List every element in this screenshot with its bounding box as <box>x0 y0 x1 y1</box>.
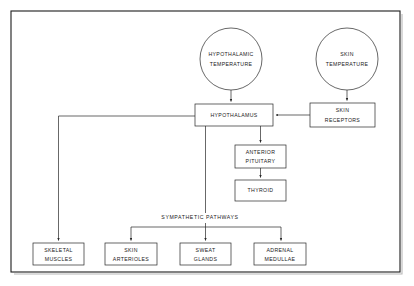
node-skin-arterioles[interactable]: SKIN ARTERIOLES <box>105 243 157 265</box>
skin-receptors-label-line2: RECEPTORS <box>325 117 361 123</box>
node-hypothalamus[interactable]: HYPOTHALAMUS <box>195 104 273 126</box>
skin-arterioles-label-line2: ARTERIOLES <box>113 256 149 262</box>
skin-receptors-label-line1: SKIN <box>336 107 350 113</box>
skin-temperature-label-line1: SKIN <box>340 51 354 57</box>
sympathetic-pathways-label-group: SYMPATHETIC PATHWAYS <box>148 213 253 223</box>
skeletal-muscles-label-line2: MUSCLES <box>45 256 73 262</box>
hypothalamus-label: HYPOTHALAMUS <box>210 112 257 118</box>
skin-temperature-circle[interactable] <box>316 28 378 90</box>
node-sweat-glands[interactable]: SWEAT GLANDS <box>180 243 231 265</box>
skin-arterioles-label-line1: SKIN <box>124 247 138 253</box>
skin-temperature-label-line2: TEMPERATURE <box>326 61 369 67</box>
node-adrenal-medullae[interactable]: ADRENAL MEDULLAE <box>254 243 306 265</box>
thyroid-label: THYROID <box>248 187 274 193</box>
node-thyroid[interactable]: THYROID <box>235 180 286 201</box>
hypothalamic-temperature-circle[interactable] <box>200 28 262 90</box>
adrenal-medullae-label-line2: MEDULLAE <box>265 256 296 262</box>
hypothalamic-temperature-label-line1: HYPOTHALAMIC <box>208 51 253 57</box>
sweat-glands-label-line2: GLANDS <box>194 256 218 262</box>
flow-diagram: SYMPATHETIC PATHWAYS HYPOTHALAMIC TEMPER… <box>0 0 414 286</box>
diagram-canvas: SYMPATHETIC PATHWAYS HYPOTHALAMIC TEMPER… <box>0 0 414 286</box>
node-anterior-pituitary[interactable]: ANTERIOR PITUITARY <box>235 145 286 168</box>
sweat-glands-label-line1: SWEAT <box>196 247 216 253</box>
node-skeletal-muscles[interactable]: SKELETAL MUSCLES <box>33 243 84 265</box>
node-skin-temperature[interactable]: SKIN TEMPERATURE <box>316 28 378 90</box>
hypothalamic-temperature-label-line2: TEMPERATURE <box>210 61 253 67</box>
anterior-pituitary-label-line2: PITUITARY <box>246 158 276 164</box>
sympathetic-pathways-label: SYMPATHETIC PATHWAYS <box>161 214 238 220</box>
node-hypothalamic-temperature[interactable]: HYPOTHALAMIC TEMPERATURE <box>200 28 262 90</box>
anterior-pituitary-label-line1: ANTERIOR <box>246 149 276 155</box>
node-skin-receptors[interactable]: SKIN RECEPTORS <box>310 103 375 127</box>
adrenal-medullae-label-line1: ADRENAL <box>267 247 294 253</box>
skeletal-muscles-label-line1: SKELETAL <box>44 247 73 253</box>
